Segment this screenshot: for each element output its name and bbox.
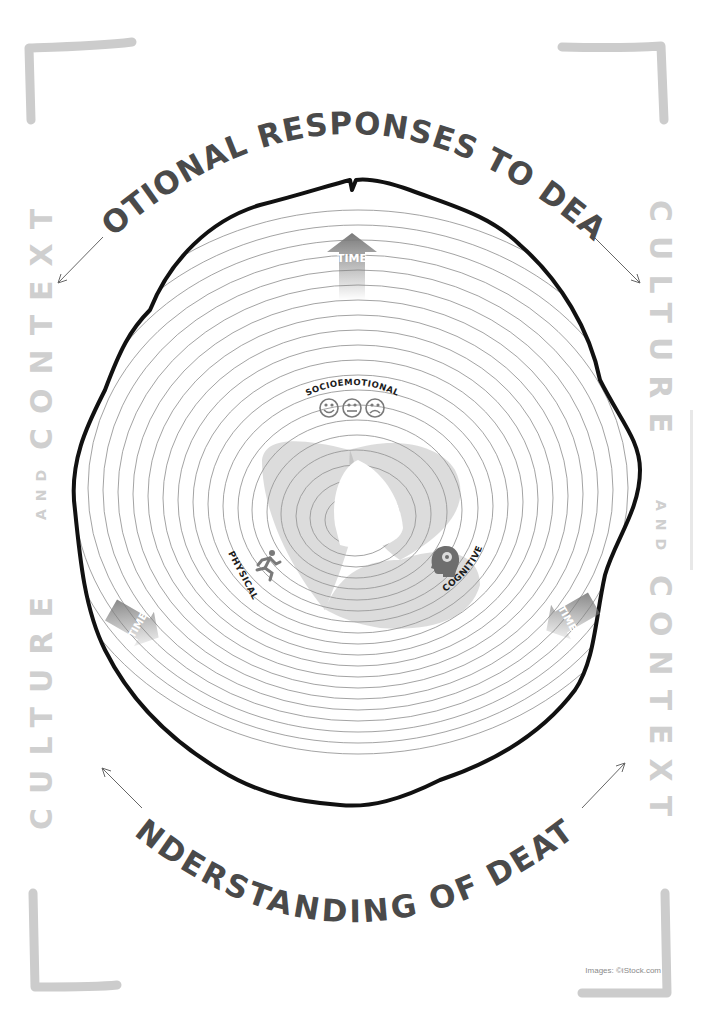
arrow-bottom-left [102,768,142,808]
bracket-bottom-right [582,893,667,993]
image-credit: Images: ©iStock.com [585,966,661,975]
bracket-bottom-left [33,893,117,987]
arrow-top-right [595,238,640,283]
svg-text:TIME: TIME [337,252,367,265]
left-word-culture: CULTURE [24,583,59,830]
bracket-top-left [29,42,132,120]
faint-edge-marks [690,410,693,570]
right-side-label: CULTURE AND CONTEXT [643,200,678,830]
left-word-and: AND [33,462,49,520]
right-word-and: AND [653,500,669,558]
arrow-bottom-right [582,763,625,808]
arrow-top-left [58,237,103,283]
left-side-label: CULTURE AND CONTEXT [24,195,59,830]
right-word-culture: CULTURE [643,200,678,447]
right-word-context: CONTEXT [643,575,678,830]
bracket-top-right [562,46,664,120]
left-word-context: CONTEXT [24,195,59,450]
diagram-canvas: CULTURE AND CONTEXT CULTURE AND CONTEXT … [0,0,709,1028]
